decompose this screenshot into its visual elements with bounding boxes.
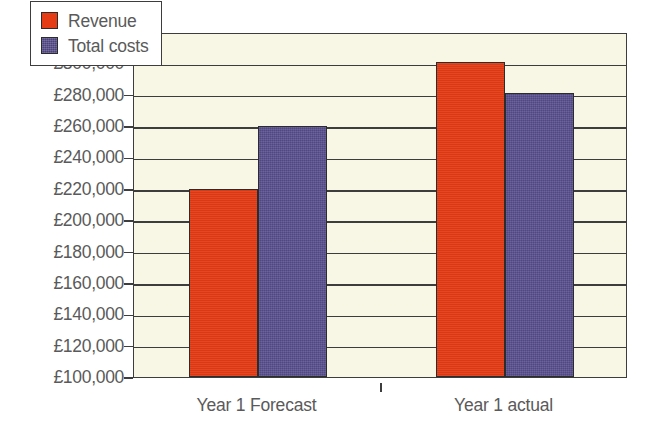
chart-legend: Revenue Total costs — [30, 1, 162, 66]
y-axis-tick-mark — [124, 220, 133, 222]
legend-entry-revenue: Revenue — [41, 8, 148, 33]
y-axis-tick-mark — [124, 95, 133, 97]
x-axis-tick-label: Year 1 Forecast — [197, 395, 317, 415]
plot-area — [133, 33, 627, 378]
y-axis-tick-mark — [124, 126, 133, 128]
bar-chart: £320,000£300,000£280,000£260,000£240,000… — [0, 0, 657, 433]
bar-total-costs-year-1-forecast — [258, 126, 327, 377]
y-axis-tick-label: £100,000 — [53, 369, 124, 387]
y-axis-tick-label: £240,000 — [53, 150, 124, 168]
y-axis-tick-mark — [124, 346, 133, 348]
bar-revenue-year-1-actual — [436, 62, 505, 377]
y-axis-tick-mark — [124, 377, 133, 379]
y-axis-tick-label: £120,000 — [53, 338, 124, 356]
revenue-swatch-icon — [41, 12, 58, 29]
y-axis-tick-label: £160,000 — [53, 275, 124, 293]
bar-total-costs-year-1-actual — [505, 93, 574, 377]
y-axis-tick-mark — [124, 315, 133, 317]
y-axis-tick-label: £280,000 — [53, 87, 124, 105]
x-axis-tick-mark — [380, 383, 382, 392]
bar-revenue-year-1-forecast — [189, 189, 258, 377]
legend-label-total-costs: Total costs — [68, 37, 148, 55]
y-axis-tick-label: £180,000 — [53, 244, 124, 262]
y-axis-tick-label: £260,000 — [53, 118, 124, 136]
y-axis-tick-mark — [124, 283, 133, 285]
y-axis-tick-mark — [124, 158, 133, 160]
x-axis-tick-label: Year 1 actual — [454, 395, 553, 415]
total-costs-swatch-icon — [41, 37, 58, 54]
bars-layer — [134, 34, 626, 377]
y-axis-tick-label: £140,000 — [53, 307, 124, 325]
x-axis: Year 1 ForecastYear 1 actual — [133, 383, 627, 423]
legend-label-revenue: Revenue — [68, 12, 137, 30]
y-axis-tick-label: £200,000 — [53, 212, 124, 230]
legend-entry-total-costs: Total costs — [41, 33, 148, 58]
y-axis-tick-mark — [124, 189, 133, 191]
y-axis-tick-label: £220,000 — [53, 181, 124, 199]
y-axis-tick-mark — [124, 252, 133, 254]
